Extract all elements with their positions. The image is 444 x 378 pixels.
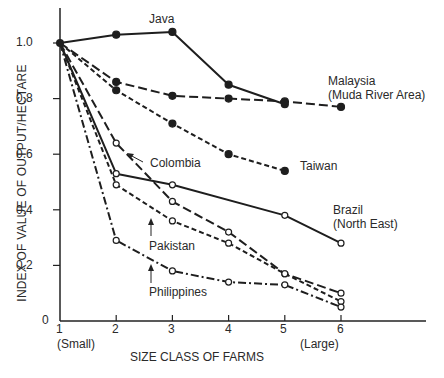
data-point: [282, 282, 288, 288]
data-point: [281, 98, 288, 105]
data-point: [113, 171, 119, 177]
data-point: [113, 140, 119, 146]
x-axis-label: SIZE CLASS OF FARMS: [130, 350, 264, 364]
data-point: [113, 87, 120, 94]
data-point: [169, 28, 176, 35]
series-malaysia-muda-river-area-: [60, 43, 341, 107]
data-point: [113, 237, 119, 243]
data-point: [113, 78, 120, 85]
label-java: Java: [149, 12, 174, 26]
data-point: [113, 31, 120, 38]
data-point: [169, 120, 176, 127]
x-tick-sublabel-small: (Small): [57, 337, 95, 351]
y-tick-0.2: 0.2: [16, 258, 33, 272]
y-tick-0.8: 0.8: [16, 91, 33, 105]
x-tick-6: 6: [337, 322, 344, 336]
label-malaysia: Malaysia: [328, 74, 375, 88]
data-point: [169, 182, 175, 188]
data-point: [226, 240, 232, 246]
x-tick-2: 2: [112, 322, 119, 336]
x-tick-3: 3: [168, 322, 175, 336]
series-philippines: [60, 43, 341, 307]
data-point: [338, 240, 344, 246]
y-tick-0.6: 0.6: [16, 147, 33, 161]
data-point: [225, 95, 232, 102]
data-point: [113, 182, 119, 188]
series-taiwan: [60, 43, 285, 171]
y-tick-0: 0: [42, 313, 49, 327]
data-point: [338, 304, 344, 310]
label-arrows: [127, 153, 154, 283]
series-pakistan: [60, 43, 341, 302]
label-taiwan: Taiwan: [300, 159, 337, 173]
series-brazil-north-east-: [60, 43, 341, 243]
data-point: [338, 290, 344, 296]
data-point: [226, 229, 232, 235]
line-chart: [0, 0, 444, 378]
x-tick-4: 4: [225, 322, 232, 336]
data-point: [169, 268, 175, 274]
label-brazil: Brazil: [333, 203, 363, 217]
data-point: [169, 92, 176, 99]
label-brazil-sub: (North East): [333, 217, 398, 231]
data-point: [225, 151, 232, 158]
label-malaysia-sub: (Muda River Area): [328, 88, 425, 102]
x-tick-sublabel-large: (Large): [300, 337, 339, 351]
data-point: [282, 271, 288, 277]
data-point: [225, 81, 232, 88]
data-point: [169, 198, 175, 204]
data-point: [281, 167, 288, 174]
data-point: [169, 218, 175, 224]
data-point: [282, 212, 288, 218]
y-tick-1.0: 1.0: [16, 35, 33, 49]
x-tick-1: 1: [56, 322, 63, 336]
y-tick-0.4: 0.4: [16, 203, 33, 217]
data-point: [226, 279, 232, 285]
data-point: [338, 103, 345, 110]
label-colombia: Colombia: [150, 156, 201, 170]
x-tick-5: 5: [280, 322, 287, 336]
label-philippines: Philippines: [149, 285, 207, 299]
label-pakistan: Pakistan: [149, 239, 195, 253]
